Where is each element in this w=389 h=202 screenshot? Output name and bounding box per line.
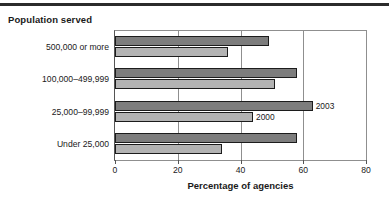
x-tick-0 <box>115 160 116 164</box>
bar-2003 <box>115 68 297 78</box>
category-row: Under 25,000 <box>115 128 366 160</box>
x-tick-label-0: 0 <box>113 165 118 175</box>
y-axis-category-label: Under 25,000 <box>57 139 109 149</box>
bar-2000 <box>115 47 228 57</box>
category-row: 500,000 or more <box>115 31 366 63</box>
y-axis-category-label: 500,000 or more <box>46 42 109 52</box>
x-tick-60 <box>303 160 304 164</box>
population-served-heading: Population served <box>8 14 92 25</box>
x-tick-40 <box>241 160 242 164</box>
x-axis-title: Percentage of agencies <box>114 180 367 191</box>
bar-2003 <box>115 133 297 143</box>
bar-2000: 2000 <box>115 112 253 122</box>
x-tick-label-20: 20 <box>173 165 183 175</box>
category-row: 25,000–99,99920032000 <box>115 96 366 128</box>
x-tick-80 <box>366 160 367 164</box>
x-tick-20 <box>178 160 179 164</box>
bar-2003 <box>115 36 269 46</box>
chart-plot-area: 020406080500,000 or more100,000–499,9992… <box>114 30 367 161</box>
bar-2000 <box>115 144 222 154</box>
x-tick-label-80: 80 <box>361 165 371 175</box>
category-row: 100,000–499,999 <box>115 63 366 95</box>
x-tick-label-60: 60 <box>298 165 308 175</box>
y-axis-category-label: 100,000–499,999 <box>42 74 109 84</box>
bar-2003: 2003 <box>115 101 313 111</box>
bar-2000 <box>115 79 275 89</box>
series-label-2003: 2003 <box>316 101 335 111</box>
x-tick-label-40: 40 <box>236 165 246 175</box>
top-horizontal-rule <box>0 3 389 6</box>
y-axis-category-label: 25,000–99,999 <box>52 107 109 117</box>
series-label-2000: 2000 <box>256 112 275 122</box>
